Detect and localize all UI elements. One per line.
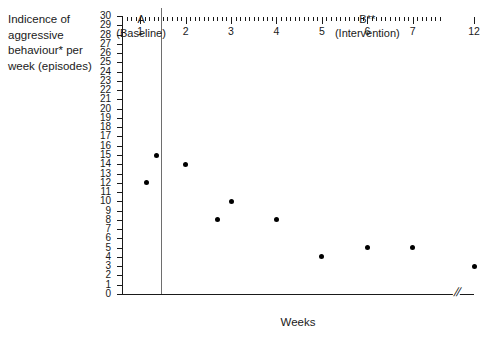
x-tick-label: 3 (228, 26, 234, 37)
x-tick-minor (331, 17, 332, 21)
data-point (144, 180, 149, 185)
y-tick: 6 (117, 238, 122, 239)
data-point (319, 254, 324, 259)
y-tick: 24 (117, 72, 122, 73)
x-tick-minor (417, 17, 418, 21)
x-tick-minor (263, 17, 264, 21)
y-tick: 27 (117, 44, 122, 45)
x-tick-minor (408, 17, 409, 21)
data-point (183, 162, 188, 167)
x-tick-major (231, 17, 232, 24)
x-tick-label: 2 (183, 26, 189, 37)
plot-area: 3029282726252423222120191817161514131211… (122, 16, 474, 294)
y-tick: 17 (117, 136, 122, 137)
x-tick-minor (286, 17, 287, 21)
x-tick-minor (236, 17, 237, 21)
x-tick-minor (422, 17, 423, 21)
x-tick-major (276, 17, 277, 24)
x-tick-minor (204, 17, 205, 21)
data-point (472, 264, 477, 269)
y-tick: 18 (117, 127, 122, 128)
x-tick-major (186, 17, 187, 24)
x-tick-minor (404, 17, 405, 21)
y-tick-label: 0 (105, 289, 111, 299)
y-tick: 5 (117, 248, 122, 249)
y-tick: 13 (117, 174, 122, 175)
x-tick-minor (299, 17, 300, 21)
x-tick-minor (177, 17, 178, 21)
x-tick-minor (295, 17, 296, 21)
x-tick-minor (435, 17, 436, 21)
x-tick-major (322, 17, 323, 24)
x-tick-minor (317, 17, 318, 21)
y-tick: 20 (117, 109, 122, 110)
x-tick-minor (290, 17, 291, 21)
y-tick: 25 (117, 62, 122, 63)
y-tick: 12 (117, 183, 122, 184)
y-axis-title: Indicence of aggressive behaviour* per w… (8, 12, 104, 74)
y-tick: 4 (117, 257, 122, 258)
x-tick-minor (167, 17, 168, 21)
y-tick: 11 (117, 192, 122, 193)
x-tick-minor (267, 17, 268, 21)
phase-label-a: A (Baseline) (116, 12, 166, 40)
y-tick: 1 (117, 285, 122, 286)
phase-change-line (161, 8, 162, 294)
x-tick-minor (240, 17, 241, 21)
x-tick-minor (245, 17, 246, 21)
x-axis-title: Weeks (122, 316, 474, 328)
y-tick: 14 (117, 164, 122, 165)
data-point (365, 245, 370, 250)
x-tick-label: 7 (410, 26, 416, 37)
data-point (154, 153, 159, 158)
x-tick-label: 12 (468, 26, 480, 37)
x-tick-minor (326, 17, 327, 21)
data-point (229, 199, 234, 204)
y-tick: 8 (117, 220, 122, 221)
x-axis-spine (122, 294, 474, 295)
y-tick: 23 (117, 81, 122, 82)
y-tick: 2 (117, 275, 122, 276)
x-tick-minor (426, 17, 427, 21)
y-tick: 19 (117, 118, 122, 119)
x-tick-minor (440, 17, 441, 21)
x-tick-minor (258, 17, 259, 21)
x-tick-minor (208, 17, 209, 21)
y-tick: 26 (117, 53, 122, 54)
x-tick-minor (249, 17, 250, 21)
y-tick: 0 (117, 294, 122, 295)
x-tick-minor (217, 17, 218, 21)
y-tick: 9 (117, 211, 122, 212)
x-tick-minor (181, 17, 182, 21)
x-tick-minor (213, 17, 214, 21)
axis-break-icon: // (452, 286, 463, 298)
x-tick-minor (199, 17, 200, 21)
x-tick-label: 4 (274, 26, 280, 37)
y-tick: 22 (117, 90, 122, 91)
y-tick: 21 (117, 99, 122, 100)
x-tick-minor (304, 17, 305, 21)
data-point (410, 245, 415, 250)
y-axis-spine (122, 16, 123, 294)
phase-label-b: B** (Intervention) (335, 12, 400, 40)
x-tick-label: 5 (319, 26, 325, 37)
x-tick-minor (281, 17, 282, 21)
data-point (215, 217, 220, 222)
y-tick: 10 (117, 201, 122, 202)
x-tick-minor (190, 17, 191, 21)
x-tick-minor (195, 17, 196, 21)
data-point (274, 217, 279, 222)
x-tick-minor (226, 17, 227, 21)
x-tick-minor (172, 17, 173, 21)
x-tick-minor (272, 17, 273, 21)
single-case-design-chart: Indicence of aggressive behaviour* per w… (0, 0, 492, 339)
x-tick-minor (222, 17, 223, 21)
x-tick-minor (254, 17, 255, 21)
y-tick: 7 (117, 229, 122, 230)
y-tick: 15 (117, 155, 122, 156)
x-tick-minor (431, 17, 432, 21)
x-tick-major (413, 17, 414, 24)
y-tick: 3 (117, 266, 122, 267)
x-tick-major (474, 17, 475, 24)
x-tick-minor (313, 17, 314, 21)
